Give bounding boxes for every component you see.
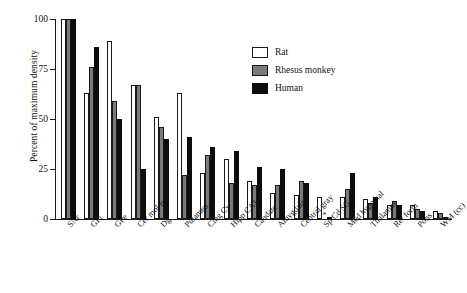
legend-swatch-rat — [252, 47, 268, 58]
y-axis-label: Percent of maximum density — [26, 6, 42, 206]
bar — [71, 19, 76, 219]
bar-group — [224, 19, 239, 219]
y-tick-label: 25 — [39, 164, 49, 174]
bar — [94, 47, 99, 219]
legend-item: Rat — [252, 44, 372, 60]
y-tick-mark — [50, 19, 55, 20]
bar-group — [107, 19, 122, 219]
y-tick-label: 100 — [34, 14, 48, 24]
bar — [117, 119, 122, 219]
legend-swatch-monkey — [252, 65, 268, 76]
y-tick-mark — [50, 119, 55, 120]
bar — [210, 147, 215, 219]
bar — [187, 137, 192, 219]
legend-label: Rhesus monkey — [275, 65, 335, 75]
y-tick-label: 50 — [39, 114, 49, 124]
bar-group — [84, 19, 99, 219]
legend-label: Rat — [275, 47, 288, 57]
bar-group — [200, 19, 215, 219]
legend-item: Human — [252, 80, 372, 96]
bar — [164, 139, 169, 219]
y-tick-label: 75 — [39, 64, 49, 74]
bar — [234, 151, 239, 219]
bar-group — [177, 19, 192, 219]
y-tick-mark — [50, 169, 55, 170]
y-tick-mark — [50, 69, 55, 70]
y-tick-label: 0 — [43, 214, 48, 224]
bar-group — [154, 19, 169, 219]
y-tick-mark — [50, 219, 55, 220]
legend-item: Rhesus monkey — [252, 62, 372, 78]
chart-legend: RatRhesus monkeyHuman — [252, 44, 372, 98]
legend-label: Human — [275, 83, 303, 93]
bar-group — [387, 19, 402, 219]
bar-group — [61, 19, 76, 219]
legend-swatch-human — [252, 83, 268, 94]
bar-group — [410, 19, 425, 219]
bar-group — [131, 19, 146, 219]
bar-group — [433, 19, 448, 219]
